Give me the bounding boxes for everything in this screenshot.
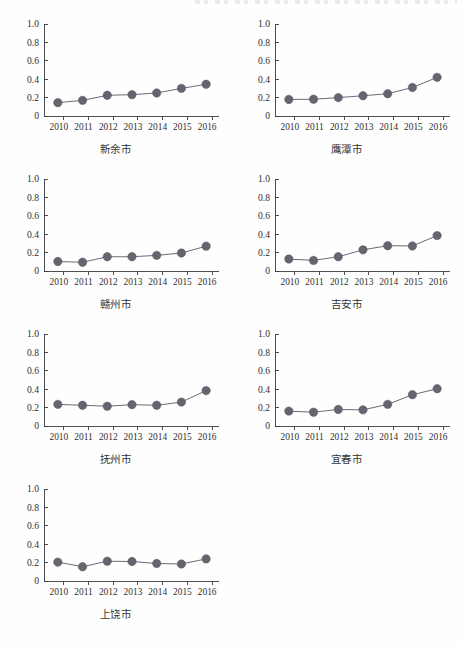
- svg-text:2013: 2013: [355, 432, 374, 442]
- svg-text:2015: 2015: [173, 587, 192, 597]
- svg-text:0.4: 0.4: [27, 539, 39, 550]
- svg-text:2016: 2016: [198, 587, 217, 597]
- svg-text:2011: 2011: [74, 122, 93, 132]
- svg-text:2015: 2015: [404, 277, 423, 287]
- svg-text:0.6: 0.6: [258, 365, 270, 376]
- subplot-title-yingtan: 鹰潭市: [231, 141, 462, 156]
- svg-text:2010: 2010: [49, 432, 68, 442]
- svg-text:2014: 2014: [148, 587, 167, 597]
- svg-text:1.0: 1.0: [258, 173, 270, 184]
- svg-text:0.8: 0.8: [27, 192, 39, 203]
- svg-text:2010: 2010: [280, 122, 299, 132]
- svg-text:2014: 2014: [379, 122, 398, 132]
- svg-text:0.2: 0.2: [258, 247, 270, 258]
- svg-text:0: 0: [265, 110, 270, 121]
- plot-area-yingtan: 00.20.40.60.81.0201020112012201320142015…: [231, 14, 462, 142]
- svg-text:2010: 2010: [280, 432, 299, 442]
- svg-text:0.2: 0.2: [27, 557, 39, 568]
- svg-text:2016: 2016: [429, 277, 448, 287]
- svg-text:0: 0: [265, 420, 270, 431]
- svg-text:0.6: 0.6: [27, 520, 39, 531]
- svg-text:0.4: 0.4: [258, 74, 270, 85]
- plot-area-fuzhou: 00.20.40.60.81.0201020112012201320142015…: [0, 324, 231, 452]
- svg-text:0.2: 0.2: [258, 92, 270, 103]
- svg-text:0.6: 0.6: [258, 210, 270, 221]
- plot-area-yichun: 00.20.40.60.81.0201020112012201320142015…: [231, 324, 462, 452]
- svg-text:0.4: 0.4: [27, 74, 39, 85]
- subplot-yingtan: 00.20.40.60.81.0201020112012201320142015…: [231, 14, 462, 169]
- svg-text:2014: 2014: [148, 122, 167, 132]
- svg-text:2010: 2010: [280, 277, 299, 287]
- svg-text:0.6: 0.6: [258, 55, 270, 66]
- subplot-fuzhou: 00.20.40.60.81.0201020112012201320142015…: [0, 324, 231, 479]
- svg-text:1.0: 1.0: [27, 328, 39, 339]
- svg-text:2016: 2016: [198, 122, 217, 132]
- svg-text:0.2: 0.2: [27, 92, 39, 103]
- svg-text:2011: 2011: [305, 122, 324, 132]
- plot-area-xinyu: 00.20.40.60.81.0201020112012201320142015…: [0, 14, 231, 142]
- svg-text:0: 0: [34, 575, 39, 586]
- svg-text:2013: 2013: [124, 587, 143, 597]
- svg-text:0.6: 0.6: [27, 210, 39, 221]
- svg-text:2013: 2013: [124, 432, 143, 442]
- subplot-title-ganzhou: 赣州市: [0, 296, 231, 311]
- svg-text:1.0: 1.0: [27, 483, 39, 494]
- svg-text:1.0: 1.0: [258, 328, 270, 339]
- svg-text:2016: 2016: [198, 277, 217, 287]
- svg-text:0.8: 0.8: [258, 347, 270, 358]
- svg-text:2010: 2010: [49, 587, 68, 597]
- svg-text:2012: 2012: [99, 432, 118, 442]
- svg-text:0.6: 0.6: [27, 365, 39, 376]
- svg-text:2014: 2014: [379, 277, 398, 287]
- svg-text:0.8: 0.8: [27, 37, 39, 48]
- subplot-xinyu: 00.20.40.60.81.0201020112012201320142015…: [0, 14, 231, 169]
- svg-text:2012: 2012: [99, 122, 118, 132]
- svg-text:2013: 2013: [124, 277, 143, 287]
- svg-text:2015: 2015: [173, 432, 192, 442]
- svg-text:0.4: 0.4: [27, 384, 39, 395]
- subplot-title-yichun: 宜春市: [231, 451, 462, 466]
- svg-text:0.6: 0.6: [27, 55, 39, 66]
- svg-text:2010: 2010: [49, 122, 68, 132]
- svg-text:0.2: 0.2: [27, 247, 39, 258]
- svg-text:2015: 2015: [404, 122, 423, 132]
- svg-text:1.0: 1.0: [27, 173, 39, 184]
- svg-text:2013: 2013: [355, 277, 374, 287]
- svg-text:1.0: 1.0: [258, 18, 270, 29]
- subplot-shangrao: 00.20.40.60.81.0201020112012201320142015…: [0, 479, 231, 634]
- subplot-yichun: 00.20.40.60.81.0201020112012201320142015…: [231, 324, 462, 479]
- figure-page: 00.20.40.60.81.0201020112012201320142015…: [0, 0, 462, 645]
- subplot-title-fuzhou: 抚州市: [0, 451, 231, 466]
- svg-text:0.2: 0.2: [27, 402, 39, 413]
- svg-text:2016: 2016: [198, 432, 217, 442]
- subplot-title-jian: 吉安市: [231, 296, 462, 311]
- svg-text:2012: 2012: [330, 277, 349, 287]
- subplot-title-xinyu: 新余市: [0, 141, 231, 156]
- svg-text:0: 0: [34, 420, 39, 431]
- plot-area-shangrao: 00.20.40.60.81.0201020112012201320142015…: [0, 479, 231, 607]
- svg-text:0.4: 0.4: [258, 384, 270, 395]
- svg-text:0: 0: [34, 110, 39, 121]
- svg-text:0: 0: [265, 265, 270, 276]
- svg-text:1.0: 1.0: [27, 18, 39, 29]
- subplot-ganzhou: 00.20.40.60.81.0201020112012201320142015…: [0, 169, 231, 324]
- scan-artifact-strip: [195, 0, 457, 4]
- svg-text:0.8: 0.8: [258, 37, 270, 48]
- svg-text:2016: 2016: [429, 432, 448, 442]
- svg-text:0.4: 0.4: [27, 229, 39, 240]
- svg-text:0.8: 0.8: [27, 502, 39, 513]
- svg-text:2011: 2011: [305, 277, 324, 287]
- svg-text:2012: 2012: [330, 122, 349, 132]
- subplot-jian: 00.20.40.60.81.0201020112012201320142015…: [231, 169, 462, 324]
- svg-text:2013: 2013: [355, 122, 374, 132]
- svg-text:0.8: 0.8: [27, 347, 39, 358]
- svg-text:2013: 2013: [124, 122, 143, 132]
- svg-text:2014: 2014: [148, 277, 167, 287]
- svg-text:2011: 2011: [74, 277, 93, 287]
- subplot-title-shangrao: 上饶市: [0, 606, 231, 621]
- svg-text:2015: 2015: [173, 122, 192, 132]
- svg-text:2015: 2015: [173, 277, 192, 287]
- svg-text:2014: 2014: [379, 432, 398, 442]
- plot-area-ganzhou: 00.20.40.60.81.0201020112012201320142015…: [0, 169, 231, 297]
- svg-text:2011: 2011: [74, 587, 93, 597]
